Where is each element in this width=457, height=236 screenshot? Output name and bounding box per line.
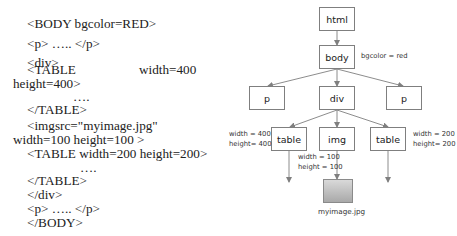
image-thumbnail: [323, 179, 353, 203]
table-right-attributes: width = 200 height= 200: [413, 129, 456, 149]
img-attributes: width = 100 height = 100: [298, 152, 343, 172]
node-div: div: [319, 86, 355, 110]
node-table-right: table: [370, 127, 406, 151]
tree-edges: [0, 0, 457, 236]
node-p-right: p: [386, 86, 422, 110]
node-img: img: [319, 127, 355, 151]
image-caption: myimage.jpg: [318, 207, 365, 217]
dom-tree-figure: <BODY bgcolor=RED> <p> ….. </p> <div> <T…: [0, 0, 457, 236]
node-p-left: p: [249, 86, 285, 110]
node-html: html: [319, 7, 355, 31]
node-body: body: [319, 45, 355, 69]
body-attribute-label: bgcolor = red: [361, 51, 408, 61]
node-table-left: table: [271, 127, 307, 151]
table-left-attributes: width = 400 height= 400: [229, 129, 272, 149]
